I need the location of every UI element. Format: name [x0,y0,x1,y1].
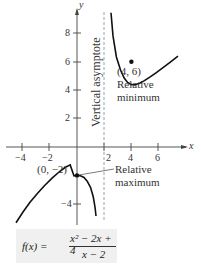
fraction-bar [69,246,116,247]
formula-denominator: x − 2 [82,248,105,260]
min-annotation-line1: Relative [117,78,154,90]
y-tick-label: 4 [65,85,70,95]
min-annotation-line2: minimum [117,91,160,103]
max-annotation-line2: maximum [115,176,160,188]
y-axis-label: y [79,0,83,10]
x-axis-label: x [189,141,193,151]
x-tick-label: −4 [15,153,26,163]
x-tick-label: −2 [42,153,53,163]
x-axis-arrow-icon [181,145,188,149]
relative-minimum-point [129,60,133,64]
asymptote-label: Vertical asymptote [89,37,104,127]
formula-lhs: f(x) = [22,240,47,252]
y-tick-label: −4 [61,199,72,209]
x-tick-label: 2 [106,153,111,163]
max-point-label: (0, −2) [37,163,67,175]
max-annotation-line1: Relative [115,163,152,175]
max-leader-line [79,169,114,175]
y-tick-label: 6 [65,57,70,67]
min-point-label: (4, 6) [117,65,141,77]
y-tick-label: 8 [65,28,70,38]
y-tick-label: 2 [65,113,70,123]
formula-box: f(x) = x² − 2x + 4 x − 2 [16,229,117,263]
relative-maximum-point [75,173,79,177]
x-tick-label: 6 [155,153,160,163]
graph-figure: x y −4 −2 2 4 6 8 6 4 2 −4 Vertical asym… [0,0,201,273]
x-tick-label: 4 [128,153,133,163]
